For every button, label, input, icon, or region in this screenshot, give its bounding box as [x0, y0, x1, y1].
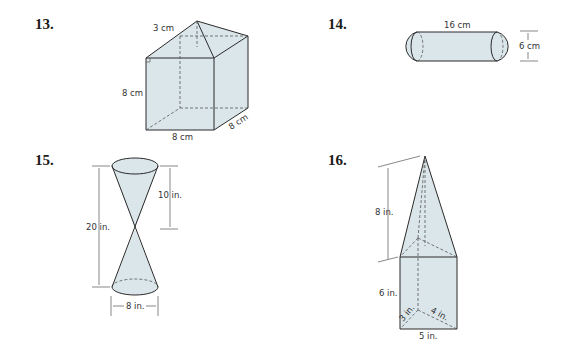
figure-15-double-cone: 20 in. 10 in. 8 in.: [86, 158, 182, 316]
label-15-total-height: 20 in.: [86, 222, 110, 232]
label-16-hypotenuse: 5 in.: [419, 331, 438, 341]
label-13-pyramid-height: 3 cm: [153, 23, 174, 33]
label-16-pyramid-height: 8 in.: [375, 207, 394, 217]
label-13-base-width: 8 cm: [172, 132, 193, 142]
figures-canvas: 3 cm 8 cm 8 cm 8 cm 16 cm 6 cm: [0, 0, 586, 352]
label-13-prism-height: 8 cm: [122, 88, 143, 98]
label-15-diameter: 8 in.: [126, 301, 145, 311]
label-15-cone-height: 10 in.: [158, 190, 182, 200]
label-16-prism-height: 6 in.: [379, 288, 398, 298]
figure-14-capsule: 16 cm 6 cm: [406, 20, 540, 61]
label-14-diameter: 6 cm: [519, 41, 540, 51]
figure-13-prism-pyramid: 3 cm 8 cm 8 cm 8 cm: [122, 21, 250, 142]
label-14-length: 16 cm: [444, 20, 470, 30]
figure-16-prism-pyramid: 8 in. 6 in. 3 in. 4 in. 5 in.: [375, 156, 457, 341]
